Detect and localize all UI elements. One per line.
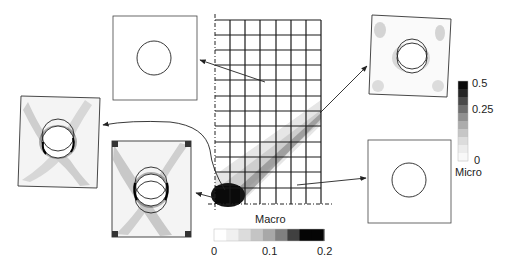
macro-colorbar-level	[214, 229, 227, 241]
micro-colorbar-title: Micro	[455, 167, 482, 178]
micro-tick-0: 0	[474, 155, 480, 166]
micro-colorbar-level	[458, 153, 468, 162]
micro-colorbar-level	[458, 81, 468, 90]
macro-colorbar-level	[238, 229, 251, 241]
micro-colorbar-level	[458, 137, 468, 146]
micro-cell-bottom-center-left	[112, 141, 191, 237]
macro-colorbar-level	[275, 229, 288, 241]
macro-mesh	[208, 14, 332, 212]
micro-colorbar-level	[458, 129, 468, 138]
micro-cell-top-right	[369, 15, 451, 97]
macro-colorbar-level	[251, 229, 264, 241]
macro-colorbar-level	[312, 229, 325, 241]
micro-cell-middle-left	[18, 96, 100, 188]
macro-colorbar-level	[226, 229, 239, 241]
micro-colorbar-level	[458, 145, 468, 154]
macro-colorbar	[214, 229, 325, 241]
macro-colorbar-title: Macro	[255, 214, 286, 225]
micro-colorbar-level	[458, 113, 468, 122]
arrow-to-top-right-cell	[320, 66, 367, 113]
micro-tick-0.5: 0.5	[472, 78, 487, 89]
macro-colorbar-level	[300, 229, 313, 241]
micro-cell-top-left	[113, 16, 197, 100]
macro-tick-0.2: 0.2	[317, 246, 332, 257]
micro-colorbar-level	[458, 89, 468, 98]
micro-tick-0.25: 0.25	[472, 104, 493, 115]
micro-colorbar-level	[458, 121, 468, 130]
macro-colorbar-level	[263, 229, 276, 241]
micro-colorbar-level	[458, 105, 468, 114]
micro-colorbar	[458, 81, 468, 162]
macro-tick-0.1: 0.1	[262, 246, 277, 257]
micro-cell-bottom-right	[368, 140, 451, 223]
macro-colorbar-level	[287, 229, 300, 241]
macro-tick-0: 0	[211, 246, 217, 257]
micro-colorbar-level	[458, 97, 468, 106]
